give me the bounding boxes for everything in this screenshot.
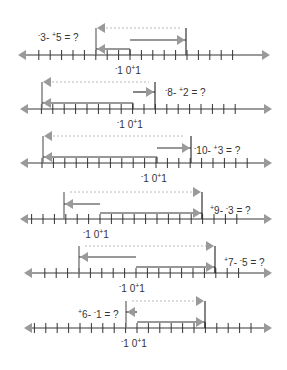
subtrahend-arrow-icon	[177, 35, 185, 45]
axis-right-arrow-icon	[264, 104, 272, 114]
axis-right-arrow-icon	[262, 50, 270, 60]
axis-left-arrow-icon	[24, 323, 32, 333]
operand-arrow-icon	[196, 317, 204, 327]
axis-right-arrow-icon	[264, 268, 272, 278]
axis-left-arrow-icon	[20, 158, 28, 168]
subtrahend-arrow-icon	[80, 252, 88, 262]
number-lines-canvas	[0, 0, 287, 370]
result-arrow-icon	[44, 131, 52, 141]
result-arrow-icon	[196, 296, 204, 306]
axis-left-arrow-icon	[24, 268, 32, 278]
axis-labels-2: -1 0+1	[117, 120, 143, 130]
problem-question-3: -10- +3 = ?	[194, 146, 240, 156]
problem-question-6: +6- -1 = ?	[78, 310, 119, 320]
axis-labels-3: -1 0+1	[141, 174, 167, 184]
operand-arrow-icon	[193, 208, 201, 218]
axis-right-arrow-icon	[264, 323, 272, 333]
problem-question-5: +7- -5 = ?	[224, 258, 265, 268]
result-arrow-icon	[193, 187, 201, 197]
axis-left-arrow-icon	[20, 214, 28, 224]
subtrahend-arrow-icon	[182, 143, 190, 153]
result-arrow-icon	[43, 77, 51, 87]
problem-question-1: -3- +5 = ?	[38, 33, 79, 43]
axis-right-arrow-icon	[264, 158, 272, 168]
operand-arrow-icon	[206, 262, 214, 272]
operand-arrow-icon	[44, 152, 52, 162]
axis-right-arrow-icon	[264, 214, 272, 224]
problem-question-4: +9- -3 = ?	[210, 206, 251, 216]
problem-question-2: -8- +2 = ?	[165, 88, 206, 98]
subtraction-number-line-worksheet: -3- +5 = ?-1 0+1-8- +2 = ?-1 0+1-10- +3 …	[0, 0, 287, 370]
axis-left-arrow-icon	[18, 50, 26, 60]
operand-arrow-icon	[97, 44, 105, 54]
result-arrow-icon	[97, 23, 105, 33]
axis-labels-5: -1 0+1	[119, 284, 145, 294]
subtrahend-arrow-icon	[127, 307, 135, 317]
axis-labels-4: -1 0+1	[83, 230, 109, 240]
result-arrow-icon	[206, 241, 214, 251]
axis-left-arrow-icon	[20, 104, 28, 114]
operand-arrow-icon	[43, 98, 51, 108]
axis-labels-6: -1 0+1	[121, 339, 147, 349]
axis-labels-1: -1 0+1	[115, 66, 141, 76]
subtrahend-arrow-icon	[65, 199, 73, 209]
subtrahend-arrow-icon	[146, 87, 154, 97]
